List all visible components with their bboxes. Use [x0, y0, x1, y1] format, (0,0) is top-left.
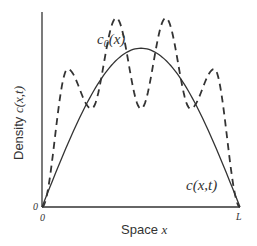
density-chart: c0(x) c(x,t) 0 0 L Space x Density c(x,t…: [0, 0, 257, 246]
ct-label: c(x,t): [186, 177, 217, 194]
x-axis-title: Space x: [121, 222, 167, 237]
end-x-label: L: [235, 211, 242, 222]
origin-x-label: 0: [40, 212, 45, 223]
origin-y-label: 0: [33, 201, 38, 212]
c0-label: c0(x): [97, 31, 125, 49]
y-axis-title: Density c(x,t): [11, 86, 26, 160]
